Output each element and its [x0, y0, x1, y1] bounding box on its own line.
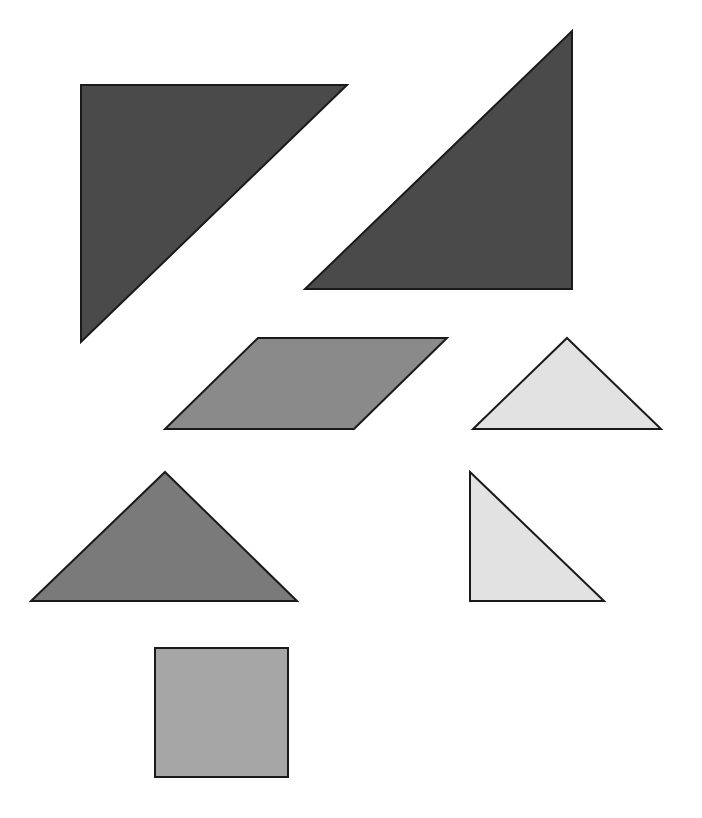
small-triangle-1	[473, 338, 661, 429]
square	[155, 648, 288, 777]
large-triangle-1	[81, 85, 347, 342]
large-triangle-2	[305, 31, 572, 289]
parallelogram	[165, 338, 447, 429]
tangram-diagram	[0, 0, 702, 818]
tangram-shapes	[0, 0, 702, 818]
small-triangle-2	[470, 472, 604, 601]
medium-triangle	[31, 472, 297, 601]
